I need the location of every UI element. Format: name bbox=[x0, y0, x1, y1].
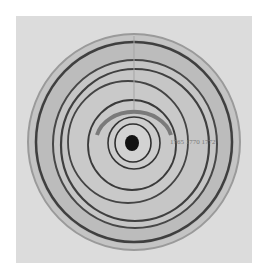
center-dot bbox=[125, 135, 139, 151]
year-annotation: 1765 1770 1772 bbox=[170, 138, 216, 146]
ring-drawing: 1765 1770 1772 bbox=[0, 0, 263, 277]
